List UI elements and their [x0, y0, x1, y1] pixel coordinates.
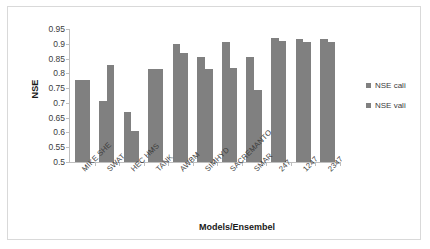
- bar: [180, 53, 188, 162]
- y-tick-mark: [66, 162, 70, 163]
- bar: [271, 38, 279, 162]
- bar-group: [217, 29, 242, 162]
- bar-group: [266, 29, 291, 162]
- bar: [296, 39, 304, 162]
- legend-label: NSE cali: [375, 81, 406, 90]
- legend-swatch-icon: [366, 103, 371, 108]
- chart-screenshot: NSE 0.950.90.850.80.750.70.650.60.550.5 …: [0, 0, 430, 249]
- plot-area: 0.950.90.850.80.750.70.650.60.550.5: [70, 29, 340, 162]
- bar: [230, 68, 238, 162]
- bar-group: [119, 29, 144, 162]
- bar-group: [193, 29, 218, 162]
- bar: [279, 41, 287, 162]
- bar-group: [315, 29, 340, 162]
- legend-swatch-icon: [366, 83, 371, 88]
- bar: [197, 57, 205, 163]
- legend-item: NSE cali: [366, 81, 426, 90]
- bar-group: [291, 29, 316, 162]
- bar: [328, 42, 336, 162]
- bar-group: [168, 29, 193, 162]
- bar-group: [70, 29, 95, 162]
- chart-legend: NSE caliNSE vali: [366, 81, 426, 121]
- x-axis-title: Models/Ensembel: [8, 222, 420, 232]
- legend-item: NSE vali: [366, 101, 426, 110]
- bar: [222, 42, 230, 162]
- bar: [303, 42, 311, 162]
- y-axis-title: NSE: [30, 79, 40, 98]
- bar: [173, 44, 181, 162]
- bar: [124, 112, 132, 162]
- bar: [75, 80, 90, 162]
- bar: [320, 39, 328, 162]
- chart-frame: NSE 0.950.90.850.80.750.70.650.60.550.5 …: [7, 6, 421, 240]
- legend-label: NSE vali: [375, 101, 406, 110]
- bar: [205, 69, 213, 162]
